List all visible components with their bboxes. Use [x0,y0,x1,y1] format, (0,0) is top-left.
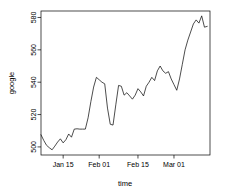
y-tick-label: 520 [31,109,38,121]
x-axis-title: time [118,179,132,188]
chart-figure: 500520540560580 Jan 15Feb 01Feb 15Mar 01… [0,0,226,195]
plot-frame [41,11,210,155]
y-tick-label: 560 [31,44,38,56]
x-tick-label: Jan 15 [53,161,74,168]
y-tick-label: 540 [31,76,38,88]
x-axis-tick-labels: Jan 15Feb 01Feb 15Mar 01 [53,161,185,168]
y-tick-label: 500 [31,141,38,153]
x-tick-label: Mar 01 [163,161,185,168]
line-chart: 500520540560580 Jan 15Feb 01Feb 15Mar 01… [0,0,226,195]
y-axis-title: google [7,72,16,95]
x-axis-ticks [63,155,174,159]
y-axis-tick-labels: 500520540560580 [31,12,38,153]
y-axis-ticks [38,17,42,146]
x-tick-label: Feb 01 [88,161,110,168]
y-tick-label: 580 [31,12,38,24]
series-line-google [41,16,207,150]
x-tick-label: Feb 15 [127,161,149,168]
